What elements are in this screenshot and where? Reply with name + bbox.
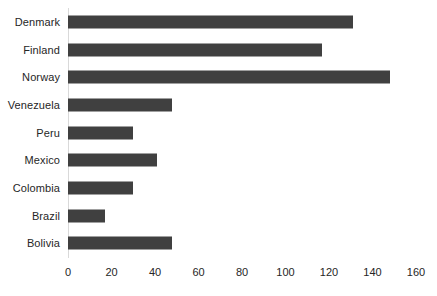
bar-track-bolivia xyxy=(68,237,172,250)
bar-row: Mexico xyxy=(0,146,437,174)
category-label-peru: Peru xyxy=(36,127,60,139)
x-tick-label: 120 xyxy=(320,266,338,278)
bar-track-venezuela xyxy=(68,98,172,111)
bar-row: Venezuela xyxy=(0,91,437,119)
bar-row: Finland xyxy=(0,36,437,64)
x-tick-label: 140 xyxy=(363,266,381,278)
bar-row: Denmark xyxy=(0,8,437,36)
category-label-denmark: Denmark xyxy=(15,16,60,28)
category-label-venezuela: Venezuela xyxy=(8,99,60,111)
x-tick-label: 20 xyxy=(105,266,117,278)
bar-row: Peru xyxy=(0,119,437,147)
bar-finland xyxy=(68,43,322,56)
category-label-norway: Norway xyxy=(22,71,60,83)
category-label-mexico: Mexico xyxy=(25,154,60,166)
x-tick-label: 60 xyxy=(192,266,204,278)
bar-track-colombia xyxy=(68,181,133,194)
category-label-brazil: Brazil xyxy=(32,210,60,222)
bar-colombia xyxy=(68,181,133,194)
bar-mexico xyxy=(68,154,157,167)
bar-track-peru xyxy=(68,126,133,139)
x-tick-label: 40 xyxy=(149,266,161,278)
bar-track-norway xyxy=(68,71,390,84)
x-axis: 0 20 40 60 80 100 120 140 160 xyxy=(0,258,437,288)
category-label-finland: Finland xyxy=(23,44,60,56)
bar-venezuela xyxy=(68,98,172,111)
category-label-bolivia: Bolivia xyxy=(27,237,60,249)
bar-track-brazil xyxy=(68,209,105,222)
bar-chart: Denmark Finland Norway Venezuela xyxy=(0,0,437,296)
bar-row: Bolivia xyxy=(0,230,437,258)
bar-track-denmark xyxy=(68,15,353,28)
bar-row: Brazil xyxy=(0,202,437,230)
bar-peru xyxy=(68,126,133,139)
bar-track-finland xyxy=(68,43,322,56)
bar-track-mexico xyxy=(68,154,157,167)
bar-brazil xyxy=(68,209,105,222)
bar-bolivia xyxy=(68,237,172,250)
bar-row: Norway xyxy=(0,63,437,91)
bar-row: Colombia xyxy=(0,174,437,202)
bar-denmark xyxy=(68,15,353,28)
bar-norway xyxy=(68,71,390,84)
x-tick-label: 100 xyxy=(276,266,294,278)
x-tick-label: 0 xyxy=(65,266,71,278)
bar-rows: Denmark Finland Norway Venezuela xyxy=(0,8,437,258)
plot-area: Denmark Finland Norway Venezuela xyxy=(0,0,437,296)
x-tick-label: 80 xyxy=(236,266,248,278)
x-tick-label: 160 xyxy=(407,266,425,278)
category-label-colombia: Colombia xyxy=(13,182,60,194)
